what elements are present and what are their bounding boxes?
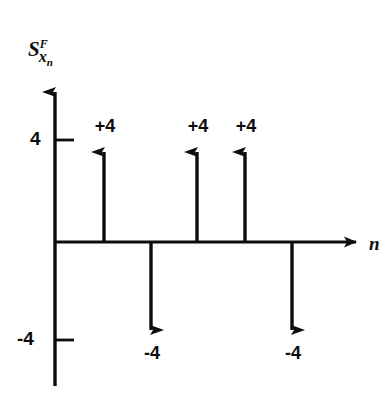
x-axis-label: n xyxy=(369,234,380,253)
y-axis-label-base: S xyxy=(28,37,40,61)
value-label-1: +4 xyxy=(86,117,124,135)
y-tick-label-negative-4: -4 xyxy=(17,329,34,348)
value-label-2: -4 xyxy=(133,344,171,362)
stem-plot-figure: SFxn n 4 -4 +4 -4 +4 +4 -4 xyxy=(0,0,392,397)
y-tick-label-positive-4: 4 xyxy=(30,129,41,148)
y-axis-label-subscript-main: x xyxy=(39,48,47,65)
value-label-5: -4 xyxy=(274,344,312,362)
y-axis-label: SFxn xyxy=(28,38,62,60)
value-label-4: +4 xyxy=(227,117,265,135)
y-axis-label-subscript-sub: n xyxy=(47,56,53,68)
value-label-3: +4 xyxy=(179,117,217,135)
